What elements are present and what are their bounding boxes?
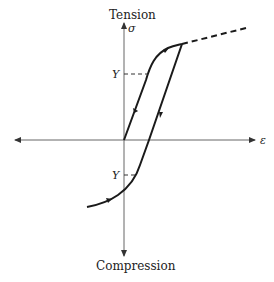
unloading-curve: [87, 44, 182, 207]
extension-dashed-line: [182, 28, 246, 44]
unloading-direction-arrow-icon: [159, 112, 163, 118]
stress-symbol: σ: [128, 22, 136, 35]
compression-label: Compression: [96, 259, 176, 273]
tension-label: Tension: [109, 8, 156, 22]
yield-lower-label: Y: [112, 169, 121, 182]
strain-symbol: ε: [260, 134, 266, 147]
stress-strain-diagram: Tension σ ε Y Y Compression: [0, 0, 274, 282]
yield-upper-label: Y: [112, 68, 121, 81]
